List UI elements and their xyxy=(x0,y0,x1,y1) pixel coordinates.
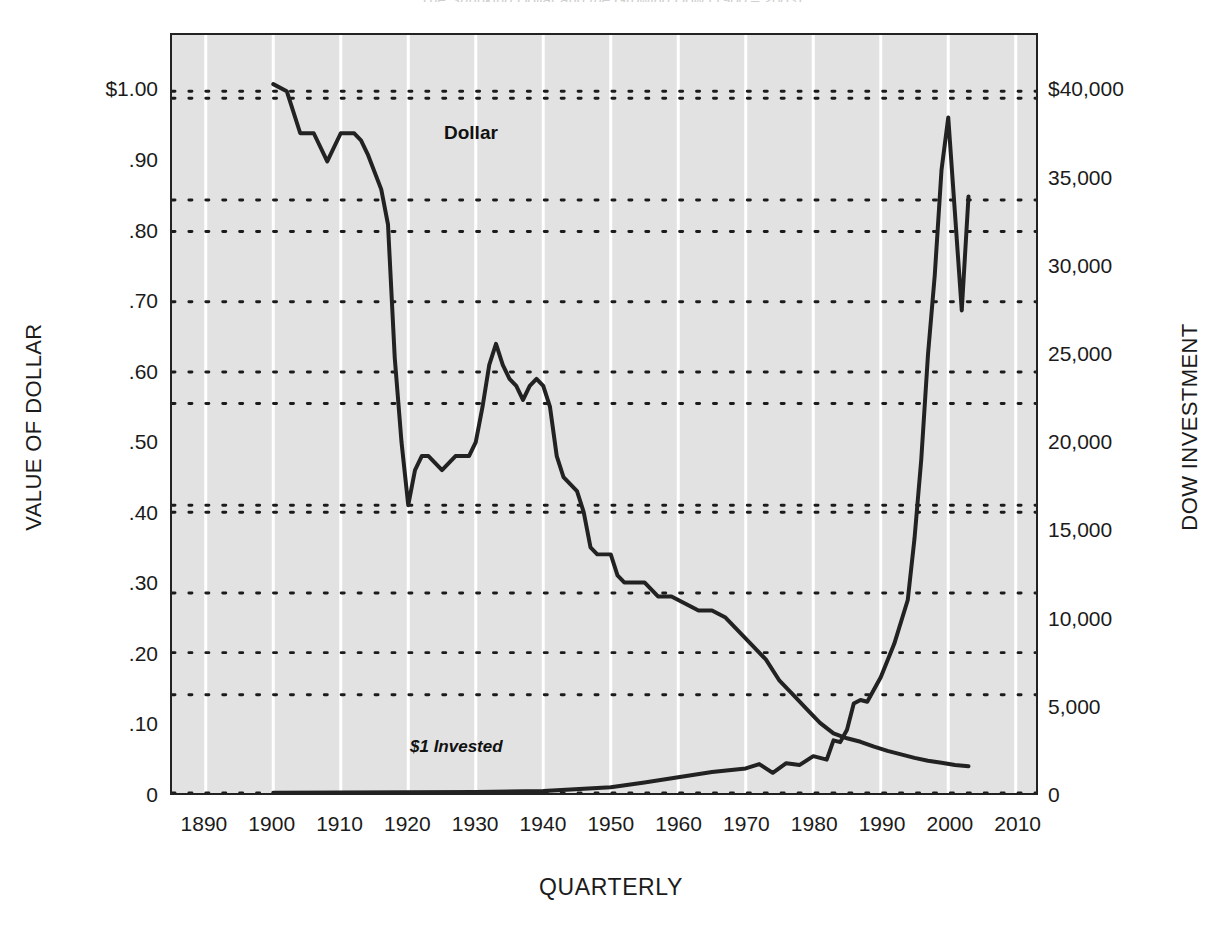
plot-area: Dollar Dow $1 Invested xyxy=(170,33,1038,795)
chart-figure: The Shrinking Dollar and the Growing Dow… xyxy=(0,0,1222,939)
x-axis-tick-label: 1970 xyxy=(723,812,770,836)
x-axis-tick-label: 1900 xyxy=(248,812,295,836)
x-axis-ticks: 1890190019101920193019401950196019701980… xyxy=(0,812,1222,842)
y-axis-left-tick-label: $1.00 xyxy=(105,78,158,99)
y-axis-right-tick-label: 25,000 xyxy=(1048,343,1112,364)
y-axis-right-tick-label: $40,000 xyxy=(1048,78,1124,99)
y-axis-right-tick-label: 10,000 xyxy=(1048,608,1112,629)
y-axis-right-ticks: 05,00010,00015,00020,00025,00030,00035,0… xyxy=(1048,0,1168,939)
x-axis-tick-label: 1930 xyxy=(452,812,499,836)
y-axis-left-ticks: 0.10.20.30.40.50.60.70.80.90$1.00 xyxy=(60,0,158,939)
x-axis-tick-label: 1940 xyxy=(520,812,567,836)
y-axis-left-title: VALUE OF DOLLAR xyxy=(21,277,47,577)
y-axis-right-tick-label: 0 xyxy=(1048,784,1060,805)
x-axis-title: QUARTERLY xyxy=(0,874,1222,901)
y-axis-left-tick-label: .40 xyxy=(129,502,158,523)
y-axis-right-tick-label: 5,000 xyxy=(1048,696,1101,717)
y-axis-right-title: DOW INVESTMENT xyxy=(1177,277,1203,577)
series-label-dollar: Dollar xyxy=(444,122,498,144)
y-axis-left-tick-label: .80 xyxy=(129,220,158,241)
x-axis-tick-label: 1890 xyxy=(181,812,228,836)
x-axis-tick-label: 1910 xyxy=(316,812,363,836)
y-axis-left-tick-label: .20 xyxy=(129,643,158,664)
x-axis-tick-label: 1960 xyxy=(655,812,702,836)
x-axis-tick-label: 1990 xyxy=(859,812,906,836)
y-axis-right-tick-label: 35,000 xyxy=(1048,167,1112,188)
plot-svg xyxy=(172,35,1036,793)
y-axis-right-tick-label: 20,000 xyxy=(1048,431,1112,452)
series-line-dollar xyxy=(273,84,968,766)
y-axis-left-tick-label: .10 xyxy=(129,713,158,734)
x-axis-tick-label: 1920 xyxy=(384,812,431,836)
y-axis-left-tick-label: .90 xyxy=(129,149,158,170)
y-axis-left-tick-label: 0 xyxy=(146,784,158,805)
x-axis-tick-label: 2010 xyxy=(994,812,1041,836)
series-label-one-dollar-invested: $1 Invested xyxy=(410,737,503,757)
series-line-dow xyxy=(273,117,968,792)
x-axis-tick-label: 1980 xyxy=(791,812,838,836)
x-axis-tick-label: 1950 xyxy=(587,812,634,836)
y-axis-right-tick-label: 15,000 xyxy=(1048,519,1112,540)
figure-title-cutoff: The Shrinking Dollar and the Growing Dow… xyxy=(0,0,1222,2)
y-axis-left-tick-label: .70 xyxy=(129,290,158,311)
y-axis-left-tick-label: .50 xyxy=(129,431,158,452)
y-axis-left-tick-label: .60 xyxy=(129,361,158,382)
y-axis-left-tick-label: .30 xyxy=(129,572,158,593)
y-axis-right-tick-label: 30,000 xyxy=(1048,255,1112,276)
x-axis-tick-label: 2000 xyxy=(926,812,973,836)
